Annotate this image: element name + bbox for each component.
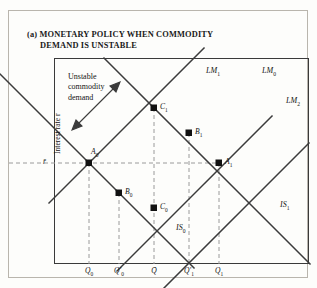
- point-label-c0: C0: [160, 202, 168, 213]
- curve-label-lm2: LM2: [286, 96, 300, 107]
- x-tick-qbar: Q̄: [151, 266, 156, 275]
- curve-label-is1: IS1: [280, 200, 289, 211]
- point-c1: [151, 105, 158, 112]
- figure-title-line1: (a) MONETARY POLICY WHEN COMMODITY: [27, 30, 213, 39]
- curve-label-lm1: LM1: [206, 66, 220, 77]
- point-label-b1: B1: [195, 127, 202, 138]
- y-tick-rbar: r̄: [43, 157, 46, 166]
- curve-is1: [104, 58, 310, 264]
- x-tick-q1: Q1: [215, 266, 223, 277]
- point-a0: [86, 160, 93, 167]
- point-label-a1: A1: [225, 157, 232, 168]
- x-tick-q0: Q0: [85, 266, 93, 277]
- curve-label-lm0: LM0: [262, 66, 276, 77]
- point-a1: [216, 160, 223, 167]
- figure-title: (a) MONETARY POLICY WHEN COMMODITY DEMAN…: [27, 29, 307, 51]
- point-b1: [186, 130, 193, 137]
- curve-label-is0: IS0: [176, 223, 185, 234]
- figure-card: (a) MONETARY POLICY WHEN COMMODITY DEMAN…: [8, 10, 308, 278]
- point-c0: [151, 205, 158, 212]
- figure-page: (a) MONETARY POLICY WHEN COMMODITY DEMAN…: [0, 0, 317, 288]
- point-label-a0: A0: [91, 147, 98, 158]
- y-axis-label: Interest rate r: [53, 114, 62, 154]
- x-tick-q1p: Q′1: [184, 266, 194, 277]
- instability-annotation: Unstable commodity demand: [68, 72, 130, 103]
- point-label-b0: B0: [125, 187, 132, 198]
- curve-lm0: [117, 116, 272, 271]
- point-b0: [116, 190, 123, 197]
- plot-area: Interest rate r r̄ Unstable commodity de…: [54, 58, 309, 264]
- point-label-c1: C1: [160, 102, 168, 113]
- figure-title-line2: DEMAND IS UNSTABLE: [27, 40, 307, 51]
- x-tick-q0p: Q′0: [114, 266, 124, 277]
